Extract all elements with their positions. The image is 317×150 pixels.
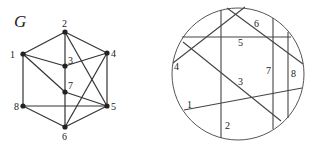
node-label: 6	[62, 131, 67, 142]
node-label: 8	[14, 101, 19, 112]
chord-label: 2	[225, 120, 230, 131]
graph-edge	[23, 32, 65, 54]
graph-node	[62, 29, 67, 34]
graph-nodes: 12345678	[10, 18, 116, 142]
chord-label: 3	[238, 76, 243, 87]
node-label: 2	[62, 18, 67, 29]
chord-circle	[172, 8, 304, 140]
chord-line	[184, 88, 302, 110]
graph-node	[20, 51, 25, 56]
chord-label: 5	[238, 37, 243, 48]
chord-label: 1	[187, 99, 192, 110]
graph-node	[20, 103, 25, 108]
node-label: 4	[111, 48, 116, 59]
chord-label: 4	[174, 61, 179, 72]
chord-label: 8	[291, 68, 296, 79]
chord-line	[173, 7, 245, 63]
graph-node	[62, 124, 67, 129]
graph-node	[62, 63, 67, 68]
chord-line	[183, 42, 281, 121]
graph-edge	[23, 106, 65, 127]
chord-label: 6	[254, 18, 259, 29]
node-label: 7	[68, 80, 73, 91]
graph-edges	[23, 32, 107, 127]
node-label: 5	[111, 101, 116, 112]
graph-node	[104, 103, 109, 108]
node-label: 3	[68, 55, 73, 66]
diagram-canvas: G 12345678 12345678	[0, 0, 317, 150]
graph-node	[62, 89, 67, 94]
node-label: 1	[10, 49, 15, 60]
chord-label: 7	[266, 65, 271, 76]
graph-node	[104, 50, 109, 55]
chord-diagram: 12345678	[172, 7, 304, 140]
graph-title: G	[14, 12, 26, 31]
graph-g: G 12345678	[10, 12, 116, 142]
